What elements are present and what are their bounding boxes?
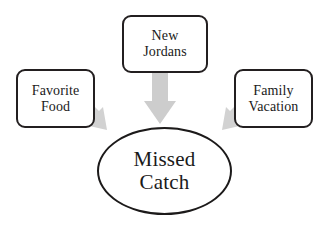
node-new-jordans-label-line2: Jordans (140, 44, 189, 60)
node-favorite-food-label: FavoriteFood (26, 83, 85, 114)
node-missed-catch[interactable]: MissedCatch (97, 127, 232, 215)
node-family-vacation-label-line2: Vacation (246, 99, 302, 115)
node-missed-catch-label: MissedCatch (134, 148, 196, 193)
diagram-canvas: FavoriteFood NewJordans FamilyVacation M… (0, 0, 327, 234)
node-missed-catch-label-line2: Catch (134, 171, 196, 194)
node-favorite-food-label-line1: Favorite (29, 83, 82, 99)
node-new-jordans[interactable]: NewJordans (122, 15, 208, 73)
arrow-new-jordans-to-missed-catch (144, 70, 176, 124)
node-family-vacation-label: FamilyVacation (243, 83, 305, 114)
node-family-vacation-label-line1: Family (246, 83, 302, 99)
node-family-vacation[interactable]: FamilyVacation (234, 69, 313, 128)
node-favorite-food[interactable]: FavoriteFood (16, 69, 95, 128)
node-new-jordans-label: NewJordans (137, 28, 192, 59)
node-missed-catch-label-line1: Missed (134, 148, 196, 171)
node-favorite-food-label-line2: Food (29, 99, 82, 115)
node-new-jordans-label-line1: New (140, 28, 189, 44)
